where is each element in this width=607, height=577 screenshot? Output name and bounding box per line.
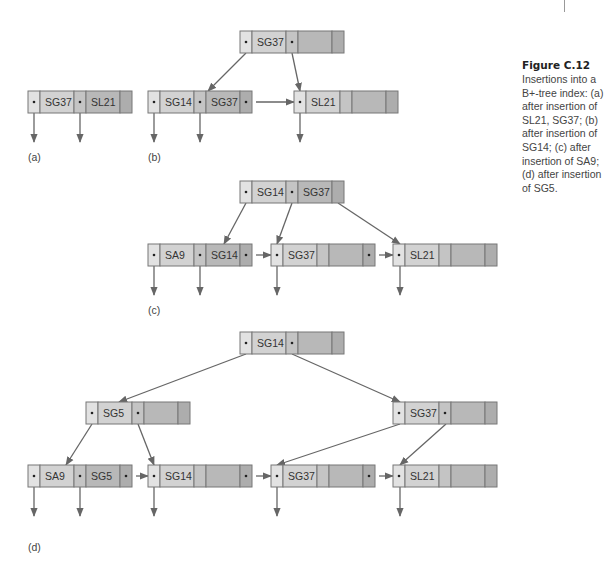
key-label: SG37: [211, 96, 238, 108]
pointer-dot-icon: [291, 191, 294, 194]
pointer-dot-icon: [368, 254, 371, 257]
panel-label: (d): [28, 541, 41, 553]
btree-node-d-leaf3: SG37: [271, 465, 375, 487]
pointer-dot-icon: [153, 101, 156, 104]
btree-node-d-root: SG14: [240, 332, 344, 354]
key-label: SG14: [165, 470, 192, 482]
btree-node-a-leaf: SG37SL21: [28, 91, 132, 113]
pointer-cell: [120, 91, 132, 113]
pointer-dot-icon: [276, 254, 279, 257]
tree-pointer-arrow: [66, 424, 92, 465]
key-label: SG14: [165, 96, 192, 108]
key-cell: [206, 465, 240, 487]
panel-label: (a): [28, 151, 41, 163]
btree-node-d-leaf2: SG14: [148, 465, 252, 487]
btree-node-b-root: SG37: [240, 31, 344, 53]
pointer-cell: [485, 465, 497, 487]
key-cell: [329, 465, 363, 487]
key-cell: [298, 332, 332, 354]
figure-caption-text: Insertions into a B+-tree index: (a) aft…: [522, 73, 607, 195]
pointer-dot-icon: [79, 101, 82, 104]
key-cell: [329, 244, 363, 266]
key-label: SA9: [165, 249, 185, 261]
pointer-dot-icon: [153, 475, 156, 478]
figure-title: Figure C.12: [522, 59, 607, 71]
key-label: SG5: [103, 407, 124, 419]
tree-pointer-arrow: [338, 203, 400, 244]
pointer-dot-icon: [291, 342, 294, 345]
tree-pointer-arrow: [138, 424, 154, 465]
key-label: SG37: [288, 470, 315, 482]
pointer-cell: [332, 181, 344, 203]
tree-pointer-arrow: [292, 354, 400, 402]
pointer-dot-icon: [245, 191, 248, 194]
key-cell: [352, 91, 386, 113]
pointer-cell: [340, 91, 352, 113]
key-cell: [451, 465, 485, 487]
key-cell: [451, 244, 485, 266]
pointer-dot-icon: [291, 41, 294, 44]
key-label: SG14: [211, 249, 238, 261]
panel-label: (c): [148, 304, 160, 316]
pointer-dot-icon: [245, 254, 248, 257]
tree-pointer-arrow: [292, 53, 300, 91]
key-label: SL21: [311, 96, 336, 108]
pointer-dot-icon: [368, 475, 371, 478]
pointer-dot-icon: [245, 475, 248, 478]
tree-pointer-arrow: [400, 424, 446, 465]
key-label: SG37: [303, 186, 330, 198]
panel-label: (b): [148, 151, 161, 163]
btree-node-c-leaf1: SA9SG14: [148, 244, 252, 266]
tree-pointer-arrow: [119, 354, 246, 402]
pointer-dot-icon: [398, 475, 401, 478]
key-label: SA9: [45, 470, 65, 482]
key-cell: [451, 402, 485, 424]
pointer-dot-icon: [299, 101, 302, 104]
pointer-cell: [317, 465, 329, 487]
pointer-dot-icon: [33, 475, 36, 478]
key-label: SL21: [410, 470, 435, 482]
pointer-cell: [194, 465, 206, 487]
pointer-dot-icon: [91, 412, 94, 415]
nodes-layer: SG37SL21SG37SG14SG37SL21SG14SG37SA9SG14S…: [28, 31, 497, 487]
pointer-cell: [332, 332, 344, 354]
key-label: SG14: [257, 186, 284, 198]
pointer-dot-icon: [137, 412, 140, 415]
btree-node-c-leaf2: SG37: [271, 244, 375, 266]
key-label: SL21: [91, 96, 116, 108]
tree-pointer-arrow: [277, 424, 400, 465]
pointer-dot-icon: [444, 412, 447, 415]
pointer-dot-icon: [199, 101, 202, 104]
pointer-cell: [439, 244, 451, 266]
btree-node-d-int1: SG5: [86, 402, 190, 424]
key-label: SG37: [410, 407, 437, 419]
pointer-dot-icon: [245, 101, 248, 104]
pointer-cell: [439, 465, 451, 487]
pointer-dot-icon: [199, 254, 202, 257]
pointer-dot-icon: [125, 475, 128, 478]
btree-node-d-leaf4: SL21: [393, 465, 497, 487]
pointer-cell: [178, 402, 190, 424]
btree-node-b-leaf2: SL21: [294, 91, 398, 113]
edges-layer: [34, 53, 446, 516]
tree-pointer-arrow: [277, 203, 292, 244]
pointer-cell: [332, 31, 344, 53]
btree-node-c-root: SG14SG37: [240, 181, 344, 203]
key-label: SG37: [45, 96, 72, 108]
key-label: SG14: [257, 337, 284, 349]
key-cell: [298, 31, 332, 53]
key-label: SG5: [91, 470, 112, 482]
btree-node-c-leaf3: SL21: [393, 244, 497, 266]
tree-pointer-arrow: [208, 53, 246, 91]
pointer-dot-icon: [79, 475, 82, 478]
btree-node-d-leaf1: SA9SG5: [28, 465, 132, 487]
pointer-dot-icon: [33, 101, 36, 104]
pointer-dot-icon: [245, 342, 248, 345]
tree-pointer-arrow: [224, 203, 246, 244]
pointer-dot-icon: [398, 412, 401, 415]
pointer-cell: [317, 244, 329, 266]
pointer-dot-icon: [398, 254, 401, 257]
pointer-dot-icon: [245, 41, 248, 44]
pointer-dot-icon: [153, 254, 156, 257]
pointer-cell: [386, 91, 398, 113]
